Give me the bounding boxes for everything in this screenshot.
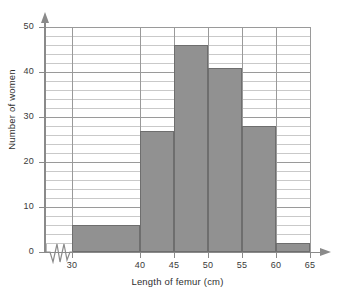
y-axis-line [44,22,46,253]
arrow-right-icon [320,248,331,256]
bar-50-55 [208,68,242,253]
x-tick-40 [140,252,141,258]
y-tick-40 [39,72,45,73]
gridline-y-50 [45,27,310,28]
bar-40-45 [140,131,174,253]
x-tick-50 [208,252,209,258]
bar-30-40 [72,225,140,252]
y-tick-label-10: 10 [6,201,34,211]
y-tick-20 [39,162,45,163]
y-tick-30 [39,117,45,118]
x-tick-label-45: 45 [159,260,189,270]
y-tick-0 [39,252,45,253]
gridline-x-30 [72,27,73,252]
histogram-chart: 01020304050 30404550556065 Length of fem… [0,0,343,293]
x-tick-45 [174,252,175,258]
x-tick-label-60: 60 [261,260,291,270]
x-tick-label-30: 30 [57,260,87,270]
x-tick-label-40: 40 [125,260,155,270]
gridline-x-65 [310,27,311,252]
bar-55-60 [242,126,276,252]
x-axis-line [45,252,322,254]
y-axis-title: Number of women [6,45,17,175]
gridline-x-60 [276,27,277,252]
arrow-up-icon [41,12,49,23]
x-tick-label-65: 65 [295,260,325,270]
y-tick-label-50: 50 [6,21,34,31]
x-tick-55 [242,252,243,258]
x-tick-60 [276,252,277,258]
gridline-y-48 [45,36,310,37]
x-tick-label-55: 55 [227,260,257,270]
y-tick-label-0: 0 [6,246,34,256]
plot-area [45,27,310,252]
x-tick-65 [310,252,311,258]
y-tick-10 [39,207,45,208]
bar-45-50 [174,45,208,252]
x-axis-title: Length of femur (cm) [45,276,310,287]
x-tick-label-50: 50 [193,260,223,270]
y-tick-50 [39,27,45,28]
x-tick-30 [72,252,73,258]
